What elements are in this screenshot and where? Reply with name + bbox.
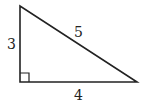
triangle-diagram: 3 5 4 [0, 0, 145, 106]
vertical-leg-label: 3 [7, 36, 16, 52]
right-angle-marker [20, 73, 29, 82]
right-triangle [20, 6, 137, 82]
hypotenuse-label: 5 [74, 24, 83, 40]
horizontal-leg-label: 4 [74, 87, 83, 103]
